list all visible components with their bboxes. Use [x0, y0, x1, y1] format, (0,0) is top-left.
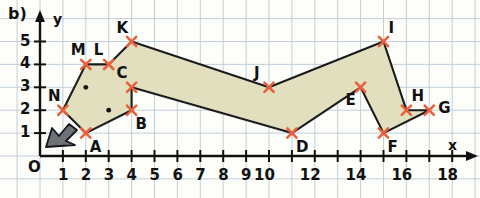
figure-canvas: b) y x O ABCDEFGHIJKLMN 1234567891012141…: [0, 0, 480, 198]
cursor-arrow-icon: [46, 124, 77, 147]
coordinate-plot: [0, 0, 480, 198]
